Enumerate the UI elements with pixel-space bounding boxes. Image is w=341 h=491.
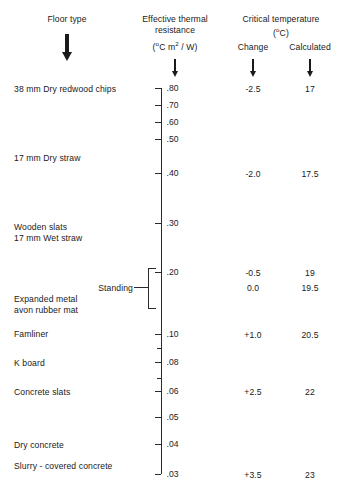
axis-tick [155, 173, 161, 174]
axis-tick-label: .60 [167, 118, 179, 127]
calculated-value: 17.5 [301, 169, 318, 179]
axis-tick-label: .70 [167, 101, 179, 110]
calculated-value: 17 [305, 84, 315, 94]
axis-tick-label: .03 [167, 470, 179, 479]
column-header-critical-temperature: Critical temperature [243, 14, 320, 25]
axis-tick [155, 334, 161, 335]
standing-leader-line [134, 287, 148, 288]
axis-tick [155, 88, 161, 89]
crit-paren-close: C) [280, 28, 289, 38]
axis-tick-label: .80 [167, 84, 179, 93]
axis-tick [155, 417, 161, 418]
floor-label-standing: Standing [98, 283, 133, 293]
calculated-value: 20.5 [301, 330, 318, 340]
change-value: -2.0 [245, 169, 260, 179]
axis-tick [155, 139, 161, 140]
axis-tick [157, 348, 161, 349]
floor-label-concrete-slats: Concrete slats [14, 387, 70, 397]
change-value: +3.5 [244, 470, 261, 480]
floor-label-wet-straw: 17 mm Wet straw [14, 233, 82, 243]
change-value: 0.0 [247, 283, 259, 293]
axis-tick-label: .08 [167, 358, 179, 367]
calculated-value: 23 [305, 470, 315, 480]
resistance-axis-line [161, 88, 162, 474]
units-tail: / W) [179, 42, 198, 52]
floor-label-rubber-mat: avon rubber mat [14, 305, 78, 315]
calculated-value: 19 [305, 268, 315, 278]
floor-label-expanded-metal: Expanded metal [14, 294, 78, 304]
calculated-value: 22 [305, 387, 315, 397]
column-header-change: Change [238, 42, 269, 53]
axis-tick [155, 223, 161, 224]
units-middle: C m [159, 42, 175, 52]
change-value: +2.5 [244, 387, 261, 397]
column-header-resistance-units: (oC m2 / W) [153, 42, 198, 53]
column-header-critical-units: (oC) [273, 28, 289, 39]
axis-tick [155, 122, 161, 123]
axis-tick-label: .05 [167, 413, 179, 422]
thermal-resistance-chart: Floor type Effective thermal resistance … [0, 0, 341, 491]
change-value: +1.0 [244, 330, 261, 340]
column-header-floor-type: Floor type [47, 14, 86, 25]
column-header-resistance-line1: Effective thermal [142, 14, 208, 25]
axis-tick [155, 391, 161, 392]
axis-tick [155, 362, 161, 363]
axis-tick-label: .10 [167, 330, 179, 339]
axis-tick-label: .04 [167, 440, 179, 449]
column-header-calculated: Calculated [289, 42, 331, 53]
axis-tick-label: .06 [167, 387, 179, 396]
floor-label-slurry-concrete: Slurry - covered concrete [14, 461, 113, 471]
axis-tick [155, 105, 161, 106]
axis-tick-label: .20 [167, 268, 179, 277]
floor-label-famliner: Famliner [14, 329, 48, 339]
axis-tick [157, 378, 161, 379]
change-value: -0.5 [245, 268, 260, 278]
standing-group-bracket [148, 268, 156, 309]
calculated-value: 19.5 [301, 283, 318, 293]
floor-label-wooden-slats: Wooden slats [14, 222, 67, 232]
axis-tick-label: .30 [167, 219, 179, 228]
axis-tick-label: .40 [167, 169, 179, 178]
change-value: -2.5 [245, 84, 260, 94]
axis-tick [155, 474, 161, 475]
axis-tick-label: .50 [167, 135, 179, 144]
floor-label-dry-concrete: Dry concrete [14, 440, 64, 450]
column-header-resistance-line2: resistance [155, 25, 195, 36]
axis-tick [155, 444, 161, 445]
floor-label-redwood-chips: 38 mm Dry redwood chips [14, 84, 116, 94]
floor-label-k-board: K board [14, 358, 45, 368]
floor-label-dry-straw: 17 mm Dry straw [14, 153, 80, 163]
